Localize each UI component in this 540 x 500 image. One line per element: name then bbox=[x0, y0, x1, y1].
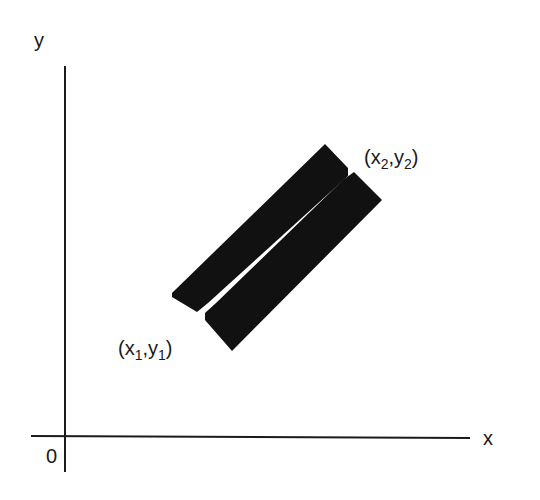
point-start-x-sub: 1 bbox=[135, 347, 143, 363]
point-end-x: x bbox=[371, 146, 381, 168]
origin-label-text: 0 bbox=[46, 445, 57, 467]
point-start-y: y bbox=[148, 337, 158, 359]
x-axis-label: x bbox=[483, 428, 493, 448]
point-start-x: x bbox=[125, 337, 135, 359]
point-start-y-sub: 1 bbox=[158, 347, 166, 363]
origin-label: 0 bbox=[46, 446, 57, 466]
x-axis-label-text: x bbox=[483, 427, 493, 449]
point-end-y-sub: 2 bbox=[404, 156, 412, 172]
y-axis-label: y bbox=[34, 30, 44, 50]
point-label-end: (x2,y2) bbox=[364, 147, 419, 171]
point-label-start: (x1,y1) bbox=[118, 338, 173, 362]
diagram-canvas bbox=[0, 0, 540, 500]
point-end-y: y bbox=[394, 146, 404, 168]
point-end-x-sub: 2 bbox=[381, 156, 389, 172]
y-axis-label-text: y bbox=[34, 29, 44, 51]
x-axis bbox=[31, 436, 470, 438]
